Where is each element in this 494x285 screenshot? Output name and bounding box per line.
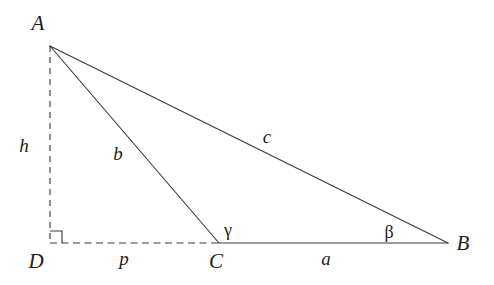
vertex-label-A: A bbox=[30, 11, 45, 35]
right-angle-icon bbox=[50, 231, 62, 243]
side-label-p: p bbox=[117, 248, 129, 269]
vertex-label-C: C bbox=[209, 249, 224, 273]
side-label-h: h bbox=[19, 135, 29, 156]
triangle-diagram: A B C D c b a h p γ β bbox=[0, 0, 494, 285]
side-label-b: b bbox=[113, 143, 123, 164]
angle-label-gamma: γ bbox=[223, 220, 232, 240]
side-label-a: a bbox=[321, 248, 331, 269]
edge-AB-side-c bbox=[50, 46, 448, 243]
geometry-canvas: A B C D c b a h p γ β bbox=[0, 0, 494, 285]
side-label-c: c bbox=[263, 126, 272, 147]
vertex-label-B: B bbox=[457, 231, 470, 255]
angle-label-beta: β bbox=[384, 222, 393, 242]
vertex-label-D: D bbox=[27, 249, 43, 273]
edge-AC-side-b bbox=[50, 46, 219, 243]
